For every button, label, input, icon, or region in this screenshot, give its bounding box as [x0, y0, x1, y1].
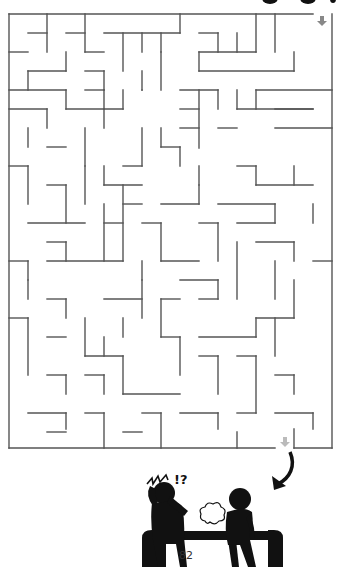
gas-cloud-icon: [200, 503, 225, 524]
end-arrow-icon: [280, 437, 290, 447]
exclamation-text: !?: [174, 472, 187, 487]
calm-person: [226, 488, 256, 567]
page-number: 82: [179, 549, 193, 562]
illustration: !?: [0, 0, 337, 567]
cropped-heads: [262, 0, 336, 4]
start-arrow-icon: [317, 16, 327, 26]
curved-arrow-icon: [272, 452, 292, 490]
